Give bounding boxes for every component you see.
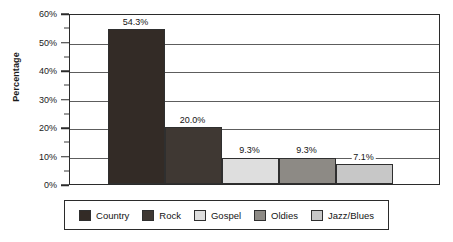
bar bbox=[222, 158, 279, 185]
bar-value-label: 7.1% bbox=[351, 152, 376, 162]
legend-swatch-icon bbox=[142, 210, 154, 221]
legend-item[interactable]: Country bbox=[79, 210, 129, 221]
bar-value-label: 9.3% bbox=[237, 145, 262, 155]
y-tick-major bbox=[61, 99, 69, 101]
y-tick-major bbox=[61, 42, 69, 44]
legend-swatch-icon bbox=[79, 210, 91, 221]
y-tick-label: 30% bbox=[39, 95, 57, 105]
bar bbox=[336, 164, 393, 184]
legend-item[interactable]: Rock bbox=[142, 210, 181, 221]
legend-swatch-icon bbox=[311, 210, 323, 221]
y-tick-label: 20% bbox=[39, 123, 57, 133]
bar-value-label: 20.0% bbox=[178, 115, 208, 125]
legend-label: Country bbox=[96, 210, 129, 221]
bar bbox=[108, 29, 165, 184]
y-tick-major bbox=[61, 156, 69, 158]
y-tick-major bbox=[61, 184, 69, 186]
y-tick-major bbox=[61, 127, 69, 129]
y-tick-label: 60% bbox=[39, 9, 57, 19]
y-tick-label: 10% bbox=[39, 152, 57, 162]
legend-item[interactable]: Jazz/Blues bbox=[311, 210, 374, 221]
legend-label: Gospel bbox=[211, 210, 241, 221]
legend: CountryRockGospelOldiesJazz/Blues bbox=[64, 200, 389, 230]
y-tick-major bbox=[61, 70, 69, 72]
y-tick-label: 40% bbox=[39, 66, 57, 76]
legend-item[interactable]: Oldies bbox=[254, 210, 298, 221]
legend-label: Rock bbox=[159, 210, 181, 221]
bar bbox=[279, 158, 336, 185]
bar-value-label: 9.3% bbox=[294, 145, 319, 155]
legend-item[interactable]: Gospel bbox=[194, 210, 241, 221]
y-tick-label: 0% bbox=[44, 180, 57, 190]
legend-swatch-icon bbox=[194, 210, 206, 221]
bar-value-label: 54.3% bbox=[121, 17, 151, 27]
bars-layer bbox=[70, 15, 439, 184]
y-axis: 0%10%20%30%40%50%60% bbox=[0, 0, 69, 242]
bar-chart: Percentage 0%10%20%30%40%50%60% CountryR… bbox=[0, 0, 453, 242]
y-tick-major bbox=[61, 13, 69, 15]
y-tick-label: 50% bbox=[39, 38, 57, 48]
legend-label: Jazz/Blues bbox=[328, 210, 374, 221]
bar bbox=[165, 127, 222, 184]
plot-area bbox=[69, 14, 440, 185]
legend-swatch-icon bbox=[254, 210, 266, 221]
legend-label: Oldies bbox=[271, 210, 298, 221]
